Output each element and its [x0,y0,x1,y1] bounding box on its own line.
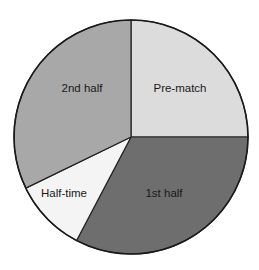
slice-label-half-time: Half-time [41,187,87,199]
slice-label-1st-half: 1st half [145,187,183,199]
pie-slice-pre-match [131,20,248,137]
slice-label-pre-match: Pre-match [153,82,206,94]
slice-label-2nd-half: 2nd half [62,82,104,94]
pie-slices [14,20,248,254]
pie-chart: Pre-match1st halfHalf-time2nd half [0,0,259,270]
